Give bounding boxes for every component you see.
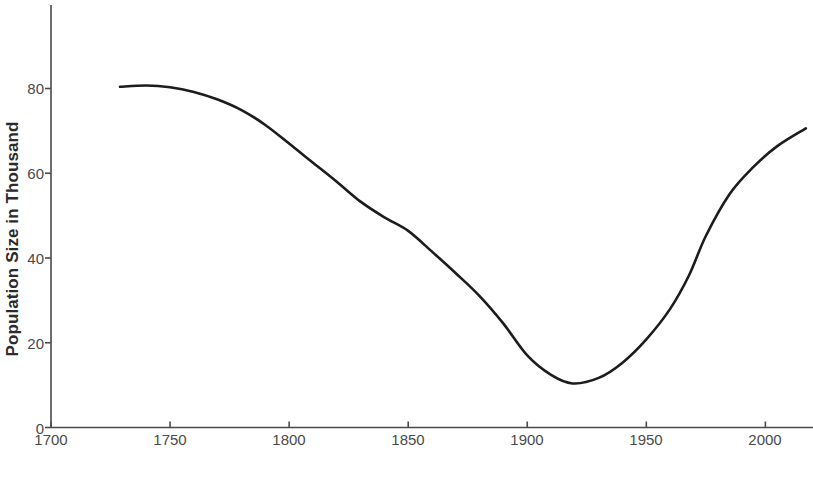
data-line-population bbox=[120, 86, 806, 384]
y-tick-label: 80 bbox=[4, 81, 44, 96]
y-tick-marks bbox=[45, 89, 51, 428]
x-tick-marks bbox=[51, 422, 765, 428]
x-tick-label: 2000 bbox=[725, 432, 805, 447]
y-tick-label: 60 bbox=[4, 166, 44, 181]
x-tick-label: 1900 bbox=[487, 432, 567, 447]
line-chart: Population Size in Thousand 80 60 40 20 … bbox=[0, 0, 813, 478]
x-tick-label: 1800 bbox=[249, 432, 329, 447]
axis-spines bbox=[51, 5, 813, 428]
y-tick-label: 20 bbox=[4, 336, 44, 351]
plot-area bbox=[0, 0, 813, 478]
x-tick-label: 1950 bbox=[606, 432, 686, 447]
x-tick-label: 1700 bbox=[11, 432, 91, 447]
x-tick-label: 1850 bbox=[368, 432, 448, 447]
x-tick-label: 1750 bbox=[130, 432, 210, 447]
y-tick-label-group: 80 60 40 20 0 bbox=[0, 0, 44, 478]
y-tick-label: 40 bbox=[4, 251, 44, 266]
